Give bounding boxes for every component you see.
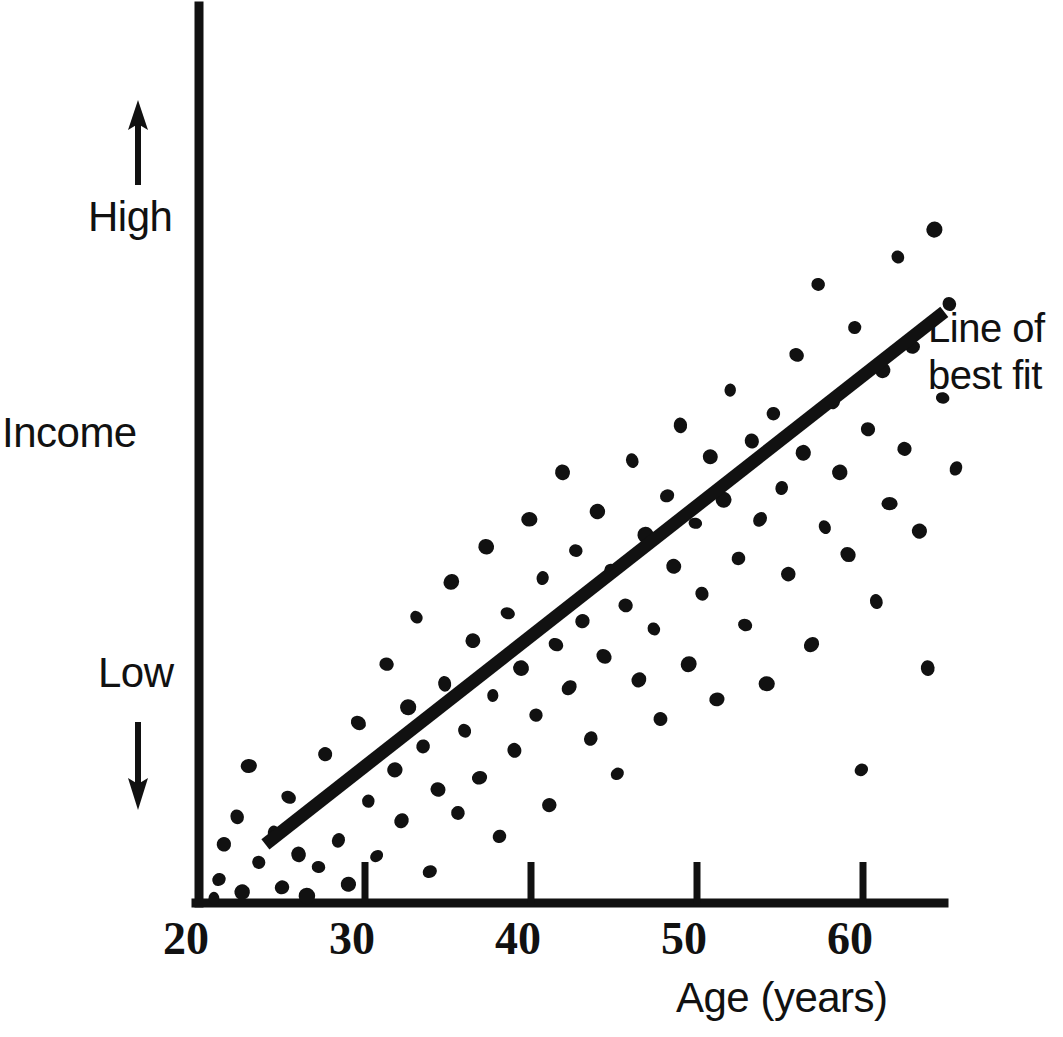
data-point [708,691,726,708]
data-point [568,544,583,558]
data-point [559,677,580,698]
data-point [923,218,946,241]
data-point [700,447,720,467]
x-tick-label-60: 60 [827,912,873,965]
data-point [499,605,516,621]
data-point [617,597,635,615]
x-axis-label: Age (years) [676,975,888,1020]
y-axis-label-low: Low [98,650,174,695]
scatter-chart: High Income Low Age (years) Line ofbest … [0,0,1063,1037]
data-point [415,738,431,755]
data-point [693,584,711,603]
data-point [758,676,774,691]
data-point [645,620,663,638]
data-point [400,699,417,716]
data-point [348,713,369,734]
data-point [652,711,669,728]
data-point [228,807,246,826]
x-tick-label-40: 40 [495,912,541,965]
data-point [764,404,783,423]
data-point [889,248,907,266]
data-point [279,788,298,806]
data-point [421,863,439,880]
annotation-line-1: Line of [928,306,1045,350]
data-point [743,432,761,450]
data-point [624,452,640,470]
data-point [795,444,812,461]
data-point [505,741,523,760]
data-point [487,689,499,703]
data-point [378,656,396,673]
data-point [315,745,334,764]
data-point [210,870,229,888]
data-point [521,512,538,527]
data-point [947,459,965,478]
annotation-line-2: best fit [928,353,1042,397]
data-point [437,675,452,693]
axes-group [196,6,944,903]
data-point [724,383,736,397]
data-point [588,502,606,520]
data-point [391,810,411,831]
data-point [385,760,405,779]
x-tick-label-50: 50 [661,912,707,965]
data-point [859,420,877,438]
x-axis-ticks [365,862,863,903]
data-point [909,521,930,542]
data-point [490,827,509,846]
data-point [330,831,347,850]
data-point [920,660,935,677]
data-point [311,860,326,874]
line-of-best-fit-annotation: Line ofbest fit [928,305,1045,399]
data-point [881,497,897,510]
data-point [774,480,790,497]
data-point [209,892,220,905]
data-point [527,706,546,725]
data-point [272,878,291,897]
data-point [290,845,307,863]
line-of-best-fit [265,312,944,845]
data-point [750,509,770,529]
data-point [450,805,465,820]
data-point [837,544,858,565]
data-point [440,571,462,593]
data-point [779,565,798,584]
data-point [463,631,482,650]
data-point [729,549,748,568]
data-point [816,518,833,536]
data-point [658,487,676,504]
data-point [677,653,700,676]
data-point [573,611,593,630]
data-point [554,463,571,481]
data-point [896,440,914,457]
data-point [787,345,807,364]
data-point [428,780,448,800]
data-point [546,635,566,654]
data-point [663,556,684,576]
data-point [810,277,826,292]
data-point [852,761,870,778]
data-point [535,570,550,586]
y-axis-label-high: High [88,194,172,239]
y-axis-label: Income [2,410,137,455]
data-point [629,669,650,690]
data-point [339,875,358,893]
data-point [540,796,559,815]
x-tick-label-30: 30 [329,912,375,965]
x-tick-label-20: 20 [163,912,209,965]
data-point [801,634,822,655]
data-point [736,617,754,633]
plot-canvas [0,0,1063,1037]
data-point [510,657,532,679]
data-point [470,769,488,786]
data-point [673,417,688,434]
data-point [831,463,849,481]
data-point [475,536,497,558]
data-point [362,795,375,808]
data-point [593,646,614,667]
data-point [582,729,600,748]
data-point [608,765,626,782]
data-point [456,721,474,740]
data-point [240,758,257,773]
data-point [249,853,268,872]
